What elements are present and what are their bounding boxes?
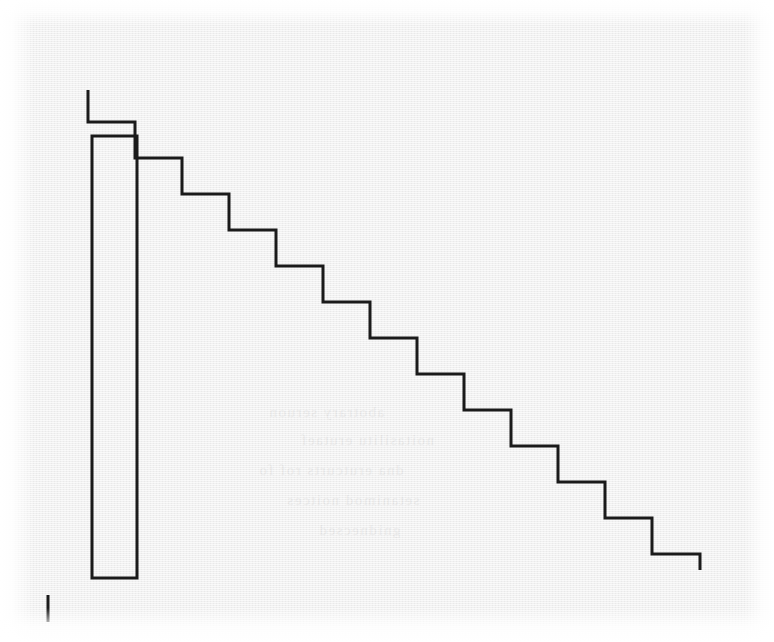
figure-page: abotrary seruon noitasilitu erutaef dna … [0, 0, 774, 642]
staircase-outline-polyline [88, 90, 700, 570]
staircase-figure [0, 0, 774, 642]
left-vertical-bar-rect [92, 136, 137, 578]
staircase-ink-group [48, 90, 700, 622]
